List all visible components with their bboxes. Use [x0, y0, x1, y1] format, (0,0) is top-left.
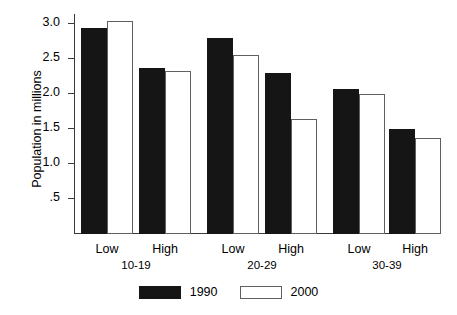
y-axis-tick: 2.0: [68, 93, 74, 94]
plot-area: 3.02.52.01.51.0.5 LowHighLowHighLowHigh …: [74, 14, 431, 234]
y-axis-tick-label: 1.0: [20, 155, 60, 169]
legend-swatch-1990: [139, 286, 181, 299]
legend-swatch-2000: [240, 286, 282, 299]
legend-label-1990: 1990: [190, 285, 218, 299]
bar-1990-low-4: [333, 89, 359, 234]
y-axis-tick-label: .5: [20, 190, 60, 204]
x-axis-label-0: Low: [81, 242, 133, 256]
x-axis-label-4: Low: [333, 242, 385, 256]
legend-label-2000: 2000: [291, 285, 319, 299]
y-axis-tick: 2.5: [68, 58, 74, 59]
y-axis-line: [74, 14, 75, 234]
bar-1990-high-1: [139, 68, 165, 234]
bar-2000-low-2: [233, 55, 259, 234]
bar-2000-low-4: [359, 94, 385, 234]
bar-1990-high-5: [389, 129, 415, 234]
bar-2000-low-0: [107, 21, 133, 234]
x-axis-label-1: High: [139, 242, 191, 256]
y-axis-tick: .5: [68, 198, 74, 199]
bar-2000-high-1: [165, 71, 191, 234]
y-axis-tick: 1.5: [68, 128, 74, 129]
x-axis-label-2: Low: [207, 242, 259, 256]
bar-2000-high-3: [291, 119, 317, 234]
chart-legend: 19902000: [0, 281, 457, 303]
group-label-1: 20-29: [207, 259, 317, 271]
x-axis-label-5: High: [389, 242, 441, 256]
y-axis-tick: 3.0: [68, 23, 74, 24]
group-label-0: 10-19: [81, 259, 191, 271]
bar-1990-high-3: [265, 73, 291, 234]
y-axis-tick-label: 2.0: [20, 85, 60, 99]
legend-entry-1990: 1990: [139, 285, 218, 299]
y-axis-tick-label: 3.0: [20, 15, 60, 29]
y-axis-tick: 1.0: [68, 163, 74, 164]
group-label-2: 30-39: [333, 259, 441, 271]
bar-2000-high-5: [415, 138, 441, 234]
y-axis-tick-label: 1.5: [20, 120, 60, 134]
y-axis-tick-label: 2.5: [20, 50, 60, 64]
bar-1990-low-0: [81, 28, 107, 234]
legend-entry-2000: 2000: [240, 285, 319, 299]
bar-1990-low-2: [207, 38, 233, 234]
bar-chart-figure: Population in millions 3.02.52.01.51.0.5…: [0, 0, 457, 315]
x-axis-label-3: High: [265, 242, 317, 256]
